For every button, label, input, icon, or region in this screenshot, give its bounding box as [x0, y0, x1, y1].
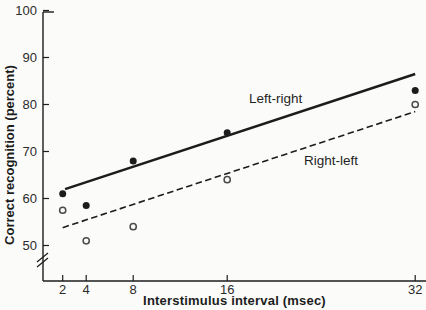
data-point-right-left	[130, 224, 136, 230]
y-tick-label: 50	[23, 238, 37, 253]
trend-line-right-left	[63, 112, 416, 228]
y-tick-label: 100	[15, 3, 37, 18]
figure: 50607080901002481632 Correct recognition…	[0, 0, 426, 310]
y-tick-label: 90	[23, 50, 37, 65]
y-axis-title: Correct recognition (percent)	[2, 65, 17, 245]
series-label-right-left: Right-left	[304, 153, 358, 168]
data-point-left-right	[130, 157, 137, 164]
series-label-left-right: Left-right	[249, 91, 302, 106]
data-point-right-left	[412, 101, 418, 107]
data-point-left-right	[83, 202, 90, 209]
data-point-left-right	[224, 129, 231, 136]
data-point-right-left	[83, 238, 89, 244]
y-tick-label: 60	[23, 191, 37, 206]
y-tick-label: 80	[23, 97, 37, 112]
data-point-right-left	[224, 177, 230, 183]
trend-line-left-right	[65, 74, 415, 189]
data-point-right-left	[60, 207, 66, 213]
data-point-left-right	[412, 87, 419, 94]
x-axis-title: Interstimulus interval (msec)	[43, 293, 426, 308]
data-point-left-right	[59, 190, 66, 197]
y-tick-label: 70	[23, 144, 37, 159]
chart-canvas: 50607080901002481632	[0, 0, 426, 310]
